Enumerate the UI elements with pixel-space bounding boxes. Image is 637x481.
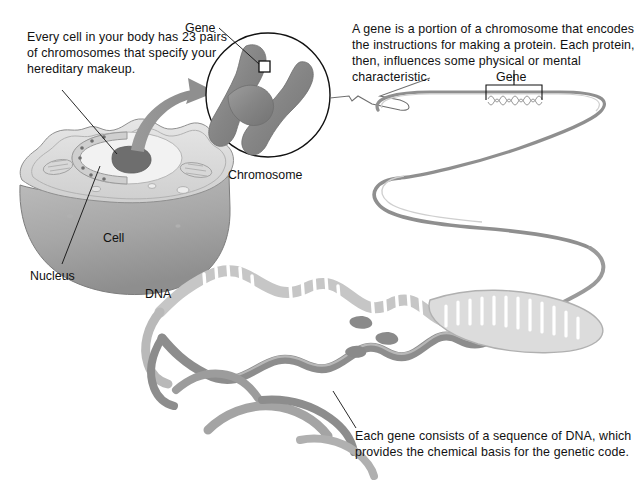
label-nucleus: Nucleus [30,269,75,283]
chromatin-thread [330,70,604,308]
figure-canvas: Every cell in your body has 23 pairs of … [0,0,637,481]
thread-descend [552,248,603,308]
dna-sequence-caption: Each gene consists of a sequence of DNA,… [355,428,635,460]
dna-strand-tails [146,312,374,476]
gene-definition-caption: A gene is a portion of a chromosome that… [352,21,637,86]
label-cell: Cell [103,231,124,245]
thread-loop-lower [374,178,590,248]
label-dna: DNA [145,287,171,301]
label-chromosome: Chromosome [228,168,302,182]
label-gene-on-chromosome: Gene [185,21,215,35]
label-gene-on-dna: Gene [496,70,526,84]
gene-locus-marker [259,61,270,72]
cell-caption: Every cell in your body has 23 pairs of … [27,29,237,77]
gene-coil-segment [488,96,542,105]
nucleolus [112,146,151,173]
